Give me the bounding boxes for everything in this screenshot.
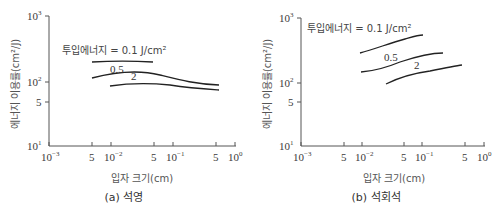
y-axis-title: 에너지 이용률(cm²/J) <box>262 39 273 130</box>
x-axis-title: 입자 크기(cm) <box>363 172 425 184</box>
figure: 103 102 5 101 10−3 5 10−2 5 10−1 5 100 입… <box>0 0 498 213</box>
curve-0.1 <box>92 61 153 62</box>
y-tick-1e1: 101 <box>279 139 294 152</box>
curve-2 <box>386 65 462 84</box>
x-tick-1e-3: 10−3 <box>293 150 312 163</box>
legend-label: 투입에너지 = 0.1 J/cm² <box>62 44 166 56</box>
x-tick-5e-1: 5 <box>213 151 219 163</box>
y-tick-1e1: 101 <box>27 139 42 152</box>
x-tick-1e0: 100 <box>228 150 243 163</box>
x-tick-1e0: 100 <box>477 150 492 163</box>
y-tick-5: 5 <box>288 96 294 108</box>
y-tick-1e2: 102 <box>279 76 294 89</box>
curve-label-0.5: 0.5 <box>110 63 124 75</box>
curve-label-2: 2 <box>414 59 420 71</box>
curve-2 <box>110 84 219 90</box>
curve-label-2: 2 <box>131 70 137 82</box>
x-tick-1e-3: 10−3 <box>41 150 60 163</box>
x-axis-title: 입자 크기(cm) <box>111 172 173 184</box>
curve-0.5 <box>361 53 443 72</box>
x-tick-5e-3: 5 <box>89 151 95 163</box>
y-tick-5: 5 <box>36 96 42 108</box>
x-tick-5e-1: 5 <box>462 151 468 163</box>
x-tick-1e-2: 10−2 <box>104 150 123 163</box>
legend-label: 투입에너지 = 0.1 J/cm² <box>307 22 411 34</box>
x-tick-1e-1: 10−1 <box>415 150 434 163</box>
y-axis-title: 에너지 이용률(cm²/J) <box>10 39 21 130</box>
caption-a: (a) 석영 <box>105 191 144 204</box>
chart-b: 103 102 5 101 10−3 5 10−2 5 10−1 5 100 입… <box>262 11 492 204</box>
curve-label-0.5: 0.5 <box>384 51 398 63</box>
y-tick-1e3: 103 <box>279 11 294 24</box>
x-tick-5e-2: 5 <box>151 151 157 163</box>
y-tick-1e2: 102 <box>27 75 42 88</box>
caption-b: (b) 석회석 <box>351 191 400 204</box>
chart-a: 103 102 5 101 10−3 5 10−2 5 10−1 5 100 입… <box>10 9 243 204</box>
x-tick-1e-1: 10−1 <box>166 150 185 163</box>
x-tick-5e-2: 5 <box>401 151 407 163</box>
x-tick-1e-2: 10−2 <box>355 150 374 163</box>
y-tick-1e3: 103 <box>27 9 42 22</box>
x-tick-5e-3: 5 <box>341 151 347 163</box>
